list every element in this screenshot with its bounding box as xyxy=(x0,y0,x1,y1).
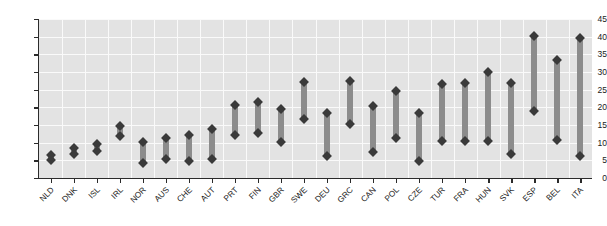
x-tick-mark xyxy=(74,179,75,183)
x-tick-label-text: CHE xyxy=(175,185,194,204)
x-tick-mark xyxy=(580,179,581,183)
x-tick-mark xyxy=(557,179,558,183)
gridline-vertical xyxy=(454,19,455,178)
x-tick-label-text: AUT xyxy=(199,185,217,203)
x-tick-label-text: CZE xyxy=(406,185,424,203)
x-tick-label-text: TUR xyxy=(429,185,447,203)
gridline-vertical xyxy=(62,19,63,178)
gridline-vertical xyxy=(269,19,270,178)
x-tick-mark xyxy=(373,179,374,183)
x-tick-label-text: POL xyxy=(383,185,401,203)
range-bar xyxy=(393,91,399,138)
x-tick-mark xyxy=(465,179,466,183)
x-tick-label-text: BEL xyxy=(545,185,562,202)
range-bar xyxy=(416,113,422,160)
x-tick-mark xyxy=(442,179,443,183)
x-tick-mark xyxy=(327,179,328,183)
gridline-vertical xyxy=(339,19,340,178)
x-tick-mark xyxy=(304,179,305,183)
gridline-vertical xyxy=(131,19,132,178)
y-tick-mark xyxy=(34,37,39,38)
gridline-vertical xyxy=(569,19,570,178)
x-tick-label-text: ESP xyxy=(521,185,539,203)
gridline-vertical xyxy=(223,19,224,178)
range-bar xyxy=(577,38,583,156)
x-tick-mark xyxy=(396,179,397,183)
x-tick-mark xyxy=(488,179,489,183)
y-tick-mark xyxy=(34,72,39,73)
x-tick-mark xyxy=(511,179,512,183)
x-tick-label-text: SWE xyxy=(289,185,309,205)
gridline-vertical xyxy=(408,19,409,178)
range-bar xyxy=(370,106,376,152)
gridline-vertical xyxy=(246,19,247,178)
x-tick-label-text: NOR xyxy=(128,185,147,204)
gridline-vertical xyxy=(546,19,547,178)
x-axis-line xyxy=(39,178,592,179)
gridline-vertical xyxy=(292,19,293,178)
gridline-vertical xyxy=(500,19,501,178)
x-tick-mark xyxy=(166,179,167,183)
range-bar xyxy=(485,72,491,141)
gridline-vertical xyxy=(316,19,317,178)
gridline-vertical xyxy=(362,19,363,178)
x-tick-mark xyxy=(534,179,535,183)
y-axis-line xyxy=(38,19,39,178)
x-tick-label-text: FIN xyxy=(247,185,263,201)
x-tick-label-text: GRC xyxy=(336,185,355,204)
x-tick-label-text: SVK xyxy=(498,185,516,203)
range-bar xyxy=(324,113,330,156)
x-tick-label-text: CAN xyxy=(359,185,378,204)
gridline-vertical xyxy=(385,19,386,178)
x-tick-mark xyxy=(235,179,236,183)
x-tick-mark xyxy=(189,179,190,183)
gridline-vertical xyxy=(154,19,155,178)
range-bar xyxy=(508,83,514,154)
x-tick-label-text: NLD xyxy=(38,185,56,203)
gridline-vertical xyxy=(108,19,109,178)
x-tick-label-text: IRL xyxy=(109,185,124,200)
x-tick-mark xyxy=(281,179,282,183)
x-tick-label-text: ISL xyxy=(86,185,101,200)
x-tick-label-text: AUS xyxy=(152,185,170,203)
chart-container: 051015202530354045 NLDDNKISLIRLNORAUSCHE… xyxy=(0,0,607,226)
x-tick-label-text: DNK xyxy=(60,185,79,204)
x-tick-label-text: ITA xyxy=(570,185,585,200)
y-tick-label: 45 xyxy=(577,15,607,24)
x-tick-mark xyxy=(350,179,351,183)
range-bar xyxy=(347,81,353,124)
x-tick-mark xyxy=(212,179,213,183)
x-tick-mark xyxy=(419,179,420,183)
y-tick-mark xyxy=(34,54,39,55)
x-tick-mark xyxy=(258,179,259,183)
x-tick-mark xyxy=(97,179,98,183)
y-tick-mark xyxy=(34,19,39,20)
x-tick-mark xyxy=(120,179,121,183)
gridline-vertical xyxy=(200,19,201,178)
x-tick-mark xyxy=(51,179,52,183)
x-tick-label-text: PRT xyxy=(222,185,240,203)
range-bar xyxy=(554,60,560,140)
y-tick-mark xyxy=(34,90,39,91)
x-tick-label-text: FRA xyxy=(452,185,470,203)
x-tick-mark xyxy=(143,179,144,183)
gridline-vertical xyxy=(85,19,86,178)
y-tick-mark xyxy=(34,125,39,126)
x-tick-label-text: GBR xyxy=(267,185,286,204)
range-bar xyxy=(462,83,468,141)
y-tick-mark xyxy=(34,143,39,144)
gridline-vertical xyxy=(177,19,178,178)
gridline-vertical xyxy=(477,19,478,178)
range-bar xyxy=(531,36,537,111)
x-tick-label-text: HUN xyxy=(474,185,493,204)
gridline-vertical xyxy=(431,19,432,178)
range-bar xyxy=(439,84,445,142)
y-tick-mark xyxy=(34,178,39,179)
x-tick-label-text: DEU xyxy=(313,185,332,204)
y-tick-mark xyxy=(34,160,39,161)
y-tick-mark xyxy=(34,107,39,108)
gridline-vertical xyxy=(523,19,524,178)
